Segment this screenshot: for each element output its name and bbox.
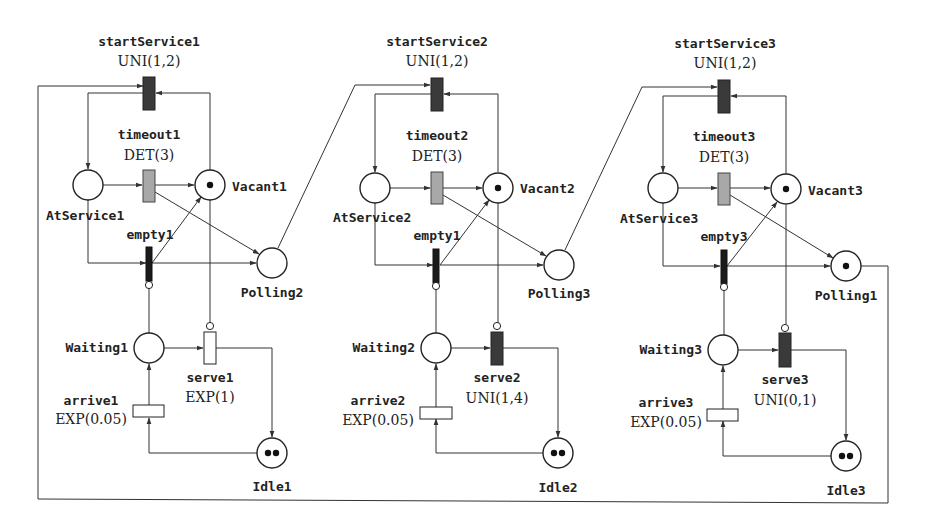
inhibitor-empty1: [145, 281, 152, 288]
transition-arrive1: [133, 405, 164, 417]
label-Idle2: Idle2: [538, 480, 577, 495]
label-empty3: empty3: [701, 229, 748, 244]
petri-net-diagram: startService1 UNI(1,2) timeout1 DET(3) V…: [0, 0, 928, 528]
token: [839, 453, 845, 459]
station-3: startService3 UNI(1,2) timeout3 DET(3) V…: [38, 36, 888, 503]
inhibitor-serve2: [493, 322, 500, 329]
transition-serve3: [779, 333, 791, 367]
transition-arrive3: [707, 409, 738, 421]
label-serve1: serve1: [187, 370, 234, 385]
inhibitor-empty3: [720, 283, 727, 290]
label-AtService2: AtService2: [333, 210, 411, 225]
label-AtService3: AtService3: [620, 211, 698, 226]
place-AtService1: [73, 170, 103, 200]
token: [495, 185, 501, 191]
label-Polling3: Polling3: [528, 286, 591, 301]
label-startService2: startService2: [386, 34, 488, 49]
label-serve2: serve2: [474, 370, 521, 385]
place-AtService2: [360, 173, 390, 203]
token: [559, 450, 565, 456]
transition-serve1: [204, 332, 216, 364]
label-arrive1: arrive1: [64, 393, 119, 408]
transition-serve2: [491, 332, 503, 365]
inhibitor-serve1: [206, 322, 213, 329]
label-Waiting1: Waiting1: [65, 340, 128, 355]
dist-startService1: UNI(1,2): [118, 53, 181, 69]
token: [843, 263, 849, 269]
place-Waiting3: [708, 335, 738, 365]
transition-empty1: [146, 247, 152, 281]
dist-timeout2: DET(3): [412, 148, 463, 164]
label-Vacant3: Vacant3: [808, 183, 863, 198]
transition-timeout3: [718, 173, 730, 205]
dist-timeout1: DET(3): [124, 147, 175, 163]
label-Idle3: Idle3: [826, 483, 865, 498]
dist-arrive1: EXP(0.05): [55, 411, 127, 427]
place-Idle2: [543, 438, 573, 468]
station-1: startService1 UNI(1,2) timeout1 DET(3) V…: [38, 34, 430, 499]
label-startService1: startService1: [98, 34, 200, 49]
token: [265, 450, 271, 456]
transition-startService2: [431, 78, 443, 111]
place-Idle1: [257, 438, 287, 468]
dist-serve2: UNI(1,4): [466, 390, 529, 406]
label-empty2: empty1: [414, 228, 461, 243]
transition-empty2: [433, 249, 439, 283]
dist-serve3: UNI(0,1): [754, 392, 817, 408]
dist-startService2: UNI(1,2): [406, 53, 469, 69]
transition-empty3: [721, 250, 727, 284]
token: [273, 450, 279, 456]
dist-timeout3: DET(3): [699, 149, 750, 165]
transition-arrive2: [420, 407, 452, 419]
label-Polling1: Polling1: [815, 288, 878, 303]
dist-serve1: EXP(1): [185, 389, 234, 405]
place-Waiting1: [134, 333, 164, 363]
label-Waiting3: Waiting3: [639, 342, 702, 357]
dist-arrive2: EXP(0.05): [342, 412, 414, 428]
inhibitor-empty2: [432, 282, 439, 289]
label-timeout3: timeout3: [693, 129, 756, 144]
transition-startService3: [718, 80, 730, 113]
place-Idle3: [831, 441, 861, 471]
label-AtService1: AtService1: [46, 208, 124, 223]
transition-timeout1: [143, 170, 155, 202]
label-timeout1: timeout1: [118, 127, 181, 142]
place-Polling2: [257, 248, 287, 278]
token: [207, 182, 213, 188]
token: [551, 450, 557, 456]
label-Idle1: Idle1: [252, 479, 291, 494]
label-Vacant2: Vacant2: [520, 181, 575, 196]
label-Vacant1: Vacant1: [232, 179, 287, 194]
dist-startService3: UNI(1,2): [694, 55, 757, 71]
label-empty1: empty1: [127, 227, 174, 242]
label-Polling2: Polling2: [241, 285, 304, 300]
label-arrive3: arrive3: [639, 395, 694, 410]
place-Waiting2: [421, 333, 451, 363]
place-Polling3: [544, 250, 574, 280]
label-startService3: startService3: [674, 36, 776, 51]
dist-arrive3: EXP(0.05): [630, 414, 702, 430]
station-1-arcs: [38, 85, 430, 499]
label-timeout2: timeout2: [406, 128, 469, 143]
transition-timeout2: [431, 172, 443, 204]
label-arrive2: arrive2: [351, 393, 406, 408]
label-serve3: serve3: [762, 372, 809, 387]
place-AtService3: [648, 173, 678, 203]
token: [783, 186, 789, 192]
inhibitor-serve3: [781, 324, 788, 331]
label-Waiting2: Waiting2: [352, 340, 415, 355]
token: [847, 453, 853, 459]
transition-startService1: [143, 77, 155, 110]
